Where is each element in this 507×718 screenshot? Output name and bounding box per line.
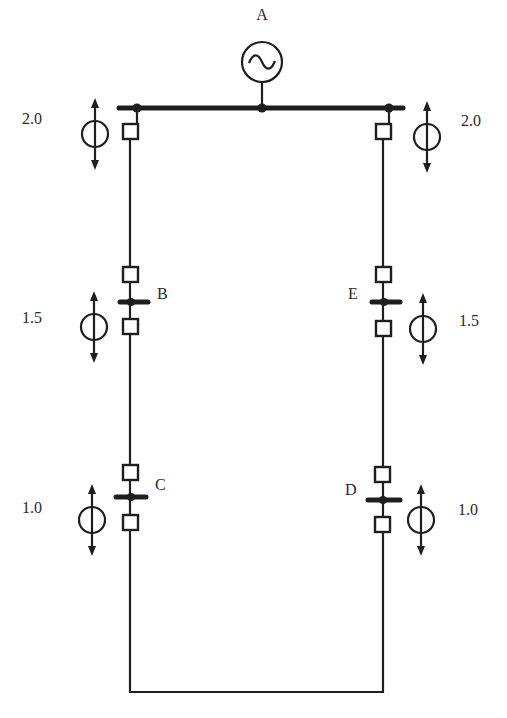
left-feeder [130,108,389,692]
circuit-breaker-icon [376,267,391,282]
current-source-icon [408,484,434,556]
current-value-e: 1.5 [459,312,479,329]
node-d-label: D [345,481,357,498]
node-e-label: E [348,285,358,302]
current-value-a-left: 2.0 [22,110,42,127]
circuit-breaker-icon [123,515,138,530]
node-c [116,465,146,530]
circuit-breaker-icon [375,517,390,532]
circuit-breaker-icon [376,124,391,139]
circuit-breaker-icon [123,319,138,334]
current-value-a-right: 2.0 [461,112,481,129]
node-d [368,467,400,532]
node-b [120,267,148,334]
current-source-icon [81,291,107,363]
generator-label: A [256,6,268,23]
circuit-breaker-icon [123,124,138,139]
node-b-label: B [157,285,168,302]
current-source-icon [82,98,108,170]
circuit-breaker-icon [375,467,390,482]
bus-junction-generator [258,104,267,113]
current-value-b: 1.5 [22,309,42,326]
current-value-c: 1.0 [22,499,42,516]
current-source-icon [79,484,105,556]
circuit-breaker-icon [123,267,138,282]
ac-generator-icon [242,42,282,108]
current-source-icon [414,101,440,173]
node-e [372,267,400,336]
node-c-label: C [155,476,166,493]
power-system-diagram: A B C E [0,0,507,718]
current-value-d: 1.0 [458,501,478,518]
circuit-breaker-icon [123,465,138,480]
circuit-breaker-icon [376,321,391,336]
current-source-icon [410,293,436,365]
